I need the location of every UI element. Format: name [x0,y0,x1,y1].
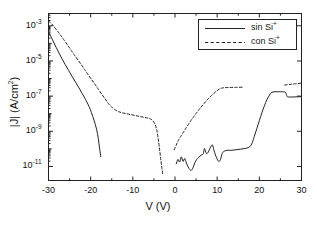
ytick-mantissa: 10 [26,20,36,30]
y-axis-title-exponent: 2 [7,81,14,85]
xtick-label: 0 [160,185,190,195]
legend-line-dashed [205,42,245,43]
ytick-exponent: -3 [36,18,42,25]
legend-label-superscript: + [276,34,280,41]
figure-container: -30 -20 -10 0 10 20 30 10-3 10-5 10-7 10… [0,0,316,229]
xtick-label: -30 [34,185,64,195]
x-axis-title: V (V) [0,200,316,212]
legend-entry-sin: sin Si+ [199,21,298,36]
legend-label-con: con Si+ [251,36,280,46]
y-axis-title-main: |J| (A/cm [8,84,20,127]
ytick-mantissa: 10 [23,160,33,170]
legend-label-text: sin Si [251,22,273,32]
ytick-mantissa: 10 [26,125,36,135]
xtick-label: 20 [244,185,274,195]
ytick-mantissa: 10 [26,90,36,100]
legend-line-solid [205,28,245,29]
legend-label-superscript: + [273,20,277,27]
legend-entry-con: con Si+ [199,35,298,50]
legend-box: sin Si+ con Si+ [198,19,297,50]
xtick-label: 30 [287,185,317,195]
ytick-exponent: -7 [36,88,42,95]
legend-label-sin: sin Si+ [251,22,277,32]
ytick-exponent: -5 [36,53,42,60]
y-axis-title: |J| (A/cm2) [8,42,20,162]
ytick-exponent: -9 [36,123,42,130]
ytick-exponent: -11 [33,158,42,165]
ytick-label: 10-3 [16,20,42,30]
xtick-label: -10 [118,185,148,195]
legend-label-text: con Si [251,36,276,46]
y-axis-title-tail: ) [8,77,20,81]
xtick-label: -20 [76,185,106,195]
xtick-label: 10 [202,185,232,195]
ytick-mantissa: 10 [26,55,36,65]
